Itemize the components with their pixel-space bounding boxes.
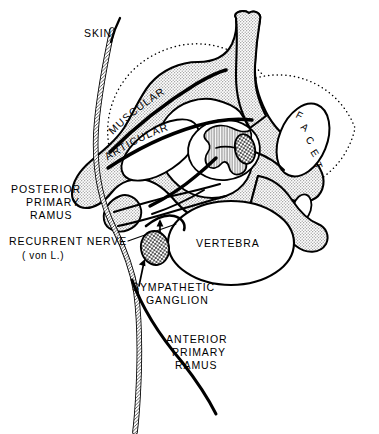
label-sympathetic-ganglion-line1: SYMPATHETIC [132, 281, 215, 293]
label-vertebra: VERTEBRA [196, 237, 260, 249]
label-recurrent-nerve: RECURRENT NERVE [9, 235, 127, 247]
label-posterior-primary-ramus-line2: PRIMARY [26, 196, 80, 208]
label-recurrent-nerve-sub: ( von L.) [22, 250, 64, 261]
label-anterior-primary-ramus-line1: ANTERIOR [166, 333, 227, 345]
label-sympathetic-ganglion-line2: GANGLION [146, 294, 209, 306]
label-anterior-primary-ramus-line3: RAMUS [175, 359, 217, 371]
label-anterior-primary-ramus-line2: PRIMARY [172, 346, 226, 358]
label-posterior-primary-ramus-line1: POSTERIOR [11, 183, 81, 195]
label-posterior-primary-ramus-line3: RAMUS [30, 209, 72, 221]
vertebra-nerve-diagram: SKIN MUSCULAR ARTICULAR POSTERIOR PRIMAR… [0, 0, 379, 434]
label-skin: SKIN [84, 27, 112, 39]
figure-canvas: SKIN MUSCULAR ARTICULAR POSTERIOR PRIMAR… [0, 0, 379, 434]
